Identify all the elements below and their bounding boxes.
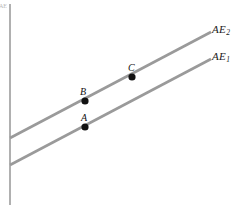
point-label-a: A bbox=[81, 112, 87, 123]
plot-canvas bbox=[0, 0, 240, 208]
ae2-line bbox=[10, 32, 211, 138]
point-label-b: B bbox=[80, 86, 86, 97]
data-point-b bbox=[81, 97, 88, 104]
point-label-c: C bbox=[128, 62, 135, 73]
vertical-axis-label-clipped: AE bbox=[0, 3, 7, 9]
ae2-line-label: AE2 bbox=[212, 23, 230, 35]
data-point-c bbox=[128, 73, 135, 80]
ae1-line bbox=[10, 59, 211, 165]
data-point-a bbox=[81, 123, 88, 130]
ae1-line-label: AE1 bbox=[212, 50, 230, 62]
ae-diagram-figure: AE AE2 AE1 C B A bbox=[0, 0, 240, 208]
